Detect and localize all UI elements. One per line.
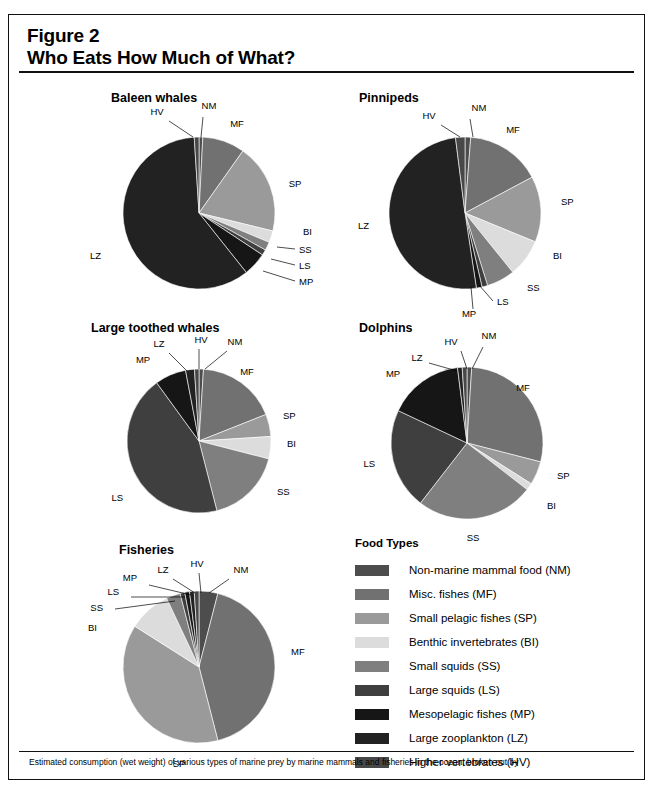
- pie-label-dolphins-lz: LZ: [411, 352, 422, 363]
- legend-item-mp: Mesopelagic fishes (MP): [355, 702, 645, 726]
- pie-label-largetooth-bi: BI: [287, 438, 296, 449]
- leader-line-fisheries-lz: [173, 579, 195, 593]
- pie-title-dolphins: Dolphins: [359, 321, 597, 335]
- pie-label-baleen-ls: LS: [299, 260, 311, 271]
- pie-label-fisheries-hv: HV: [190, 558, 204, 569]
- leader-line-baleen-hv: [169, 121, 193, 137]
- pie-panel-dolphins: DolphinsNMMFSPBISSLSMPLZHV: [347, 321, 597, 545]
- leader-line-baleen-ls: [271, 259, 295, 265]
- legend-item-bi: Benthic invertebrates (BI): [355, 630, 645, 654]
- legend-label-ls: Large squids (LS): [409, 684, 500, 696]
- legend-swatch-lz: [355, 733, 389, 744]
- pie-chart-dolphins: NMMFSPBISSLSMPLZHV: [347, 335, 597, 545]
- pie-label-pinnipeds-sp: SP: [561, 196, 574, 207]
- pie-label-largetooth-lz: LZ: [153, 338, 164, 349]
- leader-line-baleen-ss: [277, 247, 295, 249]
- legend-label-ss: Small squids (SS): [409, 660, 500, 672]
- pie-label-fisheries-ls: LS: [107, 586, 119, 597]
- legend-label-lz: Large zooplankton (LZ): [409, 732, 528, 744]
- legend-label-mp: Mesopelagic fishes (MP): [409, 708, 535, 720]
- legend-item-ss: Small squids (SS): [355, 654, 645, 678]
- pie-label-largetooth-nm: NM: [228, 336, 243, 347]
- pie-wrap-baleen: NMMFSPBISSLSMPLZHV: [81, 105, 331, 315]
- legend-item-nm: Non-marine mammal food (NM): [355, 558, 645, 582]
- pie-label-fisheries-mf: MF: [291, 646, 305, 657]
- legend-item-ls: Large squids (LS): [355, 678, 645, 702]
- leader-line-pinnipeds-mp: [471, 287, 473, 309]
- leader-line-baleen-mp: [263, 271, 295, 281]
- leader-line-pinnipeds-hv: [441, 125, 460, 137]
- pie-label-baleen-ss: SS: [299, 244, 312, 255]
- leader-line-dolphins-nm: [472, 347, 483, 369]
- pie-label-pinnipeds-hv: HV: [422, 110, 436, 121]
- pie-chart-largetooth: NMMFSPBISSLSMPLZHV: [71, 335, 321, 545]
- pie-label-pinnipeds-ls: LS: [497, 296, 509, 307]
- legend-item-sp: Small pelagic fishes (SP): [355, 606, 645, 630]
- leader-line-largetooth-nm: [205, 351, 227, 369]
- pie-label-pinnipeds-nm: NM: [472, 102, 487, 113]
- caption-divider: [19, 751, 634, 752]
- pie-wrap-largetooth: NMMFSPBISSLSMPLZHV: [71, 335, 321, 545]
- pie-panel-largetooth: Large toothed whalesNMMFSPBISSLSMPLZHV: [71, 321, 321, 545]
- pie-label-fisheries-ss: SS: [90, 602, 103, 613]
- pie-title-largetooth: Large toothed whales: [91, 321, 321, 335]
- pie-chart-baleen: NMMFSPBISSLSMPLZHV: [81, 105, 331, 315]
- legend-swatch-sp: [355, 613, 389, 624]
- pie-label-largetooth-sp: SP: [283, 410, 296, 421]
- pie-label-fisheries-lz: LZ: [157, 564, 168, 575]
- legend-swatch-ls: [355, 685, 389, 696]
- header-divider: [19, 71, 634, 73]
- pie-label-pinnipeds-lz: LZ: [358, 220, 369, 231]
- legend-swatch-mf: [355, 589, 389, 600]
- pie-label-baleen-hv: HV: [150, 106, 164, 117]
- pie-title-baleen: Baleen whales: [111, 91, 331, 105]
- legend-label-nm: Non-marine mammal food (NM): [409, 564, 571, 576]
- pie-label-largetooth-hv: HV: [194, 334, 208, 345]
- pie-label-baleen-mp: MP: [299, 276, 313, 287]
- legend-rows: Non-marine mammal food (NM)Misc. fishes …: [355, 558, 645, 774]
- pie-label-dolphins-nm: NM: [482, 330, 497, 341]
- pie-label-largetooth-ss: SS: [277, 486, 290, 497]
- legend-label-sp: Small pelagic fishes (SP): [409, 612, 537, 624]
- leader-line-dolphins-lz: [429, 363, 457, 371]
- pie-label-pinnipeds-bi: BI: [553, 250, 562, 261]
- pie-label-pinnipeds-ss: SS: [527, 282, 540, 293]
- pie-label-dolphins-mf: MF: [516, 382, 530, 393]
- pie-chart-pinnipeds: NMMFSPBISSLSMPLZHV: [347, 105, 597, 315]
- leader-line-largetooth-lz: [169, 353, 187, 371]
- pie-label-dolphins-ls: LS: [363, 458, 375, 469]
- pie-label-baleen-bi: BI: [303, 226, 312, 237]
- legend-swatch-mp: [355, 709, 389, 720]
- leader-line-fisheries-nm: [209, 579, 229, 593]
- legend-title: Food Types: [355, 537, 645, 549]
- pie-label-pinnipeds-mp: MP: [462, 308, 476, 319]
- pie-label-dolphins-hv: HV: [444, 336, 458, 347]
- figure-caption: Estimated consumption (wet weight) of va…: [29, 757, 629, 779]
- pie-panel-baleen: Baleen whalesNMMFSPBISSLSMPLZHV: [81, 91, 331, 315]
- legend-item-lz: Large zooplankton (LZ): [355, 726, 645, 750]
- pie-panel-pinnipeds: PinnipedsNMMFSPBISSLSMPLZHV: [347, 91, 597, 315]
- pie-wrap-fisheries: NMMFSPBISSLSMPLZHV: [71, 557, 321, 767]
- pie-label-dolphins-sp: SP: [557, 470, 570, 481]
- legend-swatch-nm: [355, 565, 389, 576]
- pie-label-pinnipeds-mf: MF: [506, 124, 520, 135]
- legend-swatch-ss: [355, 661, 389, 672]
- leader-line-fisheries-hv: [199, 573, 201, 593]
- leader-line-pinnipeds-nm: [470, 119, 473, 137]
- pie-label-dolphins-bi: BI: [547, 500, 556, 511]
- legend: Food Types Non-marine mammal food (NM)Mi…: [355, 537, 645, 774]
- pie-label-fisheries-nm: NM: [234, 564, 249, 575]
- legend-item-mf: Misc. fishes (MF): [355, 582, 645, 606]
- legend-label-bi: Benthic invertebrates (BI): [409, 636, 539, 648]
- pie-title-fisheries: Fisheries: [119, 543, 321, 557]
- leader-line-baleen-nm: [201, 117, 203, 137]
- pie-label-dolphins-mp: MP: [386, 368, 400, 379]
- pie-label-largetooth-ls: LS: [111, 492, 123, 503]
- pie-label-largetooth-mp: MP: [136, 354, 150, 365]
- legend-label-mf: Misc. fishes (MF): [409, 588, 497, 600]
- pie-panel-fisheries: FisheriesNMMFSPBISSLSMPLZHV: [71, 543, 321, 767]
- pie-wrap-dolphins: NMMFSPBISSLSMPLZHV: [347, 335, 597, 545]
- legend-swatch-bi: [355, 637, 389, 648]
- pie-chart-fisheries: NMMFSPBISSLSMPLZHV: [71, 557, 321, 767]
- figure-header: Figure 2 Who Eats How Much of What?: [27, 25, 587, 69]
